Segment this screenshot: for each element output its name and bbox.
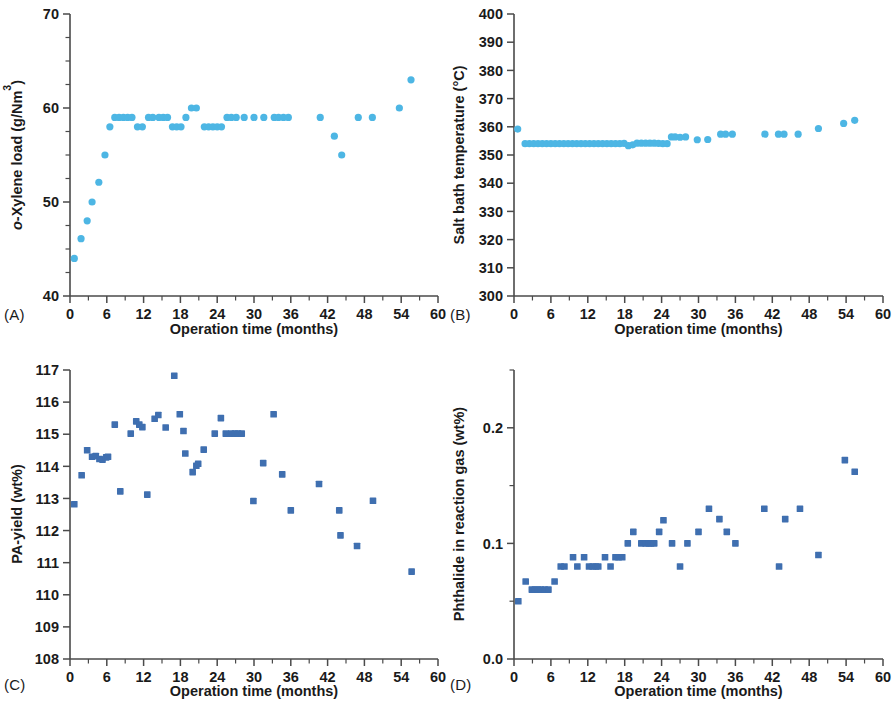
data-point	[88, 198, 95, 205]
data-point	[815, 552, 822, 559]
b-y-tick-label: 320	[479, 232, 503, 248]
data-point	[561, 563, 568, 570]
panel-b-tag: (B)	[450, 306, 471, 323]
data-point	[260, 114, 267, 121]
data-point	[815, 125, 822, 132]
figure-container: 4050607006121824303642485460Operation ti…	[0, 0, 893, 711]
data-point	[651, 540, 658, 547]
data-point	[355, 114, 362, 121]
data-point	[797, 505, 804, 512]
data-point	[574, 563, 581, 570]
b-y-tick-label: 360	[479, 119, 503, 135]
c-data-series	[71, 372, 415, 574]
data-point	[285, 114, 292, 121]
data-point	[101, 151, 108, 158]
d-data-series	[515, 457, 858, 605]
data-point	[630, 529, 637, 536]
b-y-tick-label: 300	[479, 288, 503, 304]
c-y-tick-label: 116	[36, 394, 59, 410]
c-y-tick-label: 111	[36, 555, 59, 571]
data-point	[71, 501, 78, 508]
data-point	[716, 516, 723, 523]
data-point	[570, 554, 577, 561]
c-x-axis-title: Operation time (months)	[170, 683, 339, 699]
data-point	[171, 372, 178, 379]
data-point	[193, 104, 200, 111]
data-point	[250, 114, 257, 121]
panel-c: 1081091101111121131141151161170612182430…	[0, 352, 450, 704]
data-point	[669, 540, 676, 547]
data-point	[595, 563, 602, 570]
data-point	[695, 529, 702, 536]
data-point	[316, 481, 323, 488]
d-y-tick-label: 0.2	[483, 420, 503, 436]
data-point	[331, 133, 338, 140]
d-x-tick-label: 12	[580, 669, 596, 685]
data-point	[581, 554, 588, 561]
data-point	[761, 131, 768, 138]
data-point	[723, 529, 730, 536]
c-y-tick-label: 113	[36, 491, 59, 507]
panel-c-plot: 1081091101111121131141151161170612182430…	[0, 352, 450, 704]
data-point	[111, 421, 118, 428]
data-point	[144, 491, 151, 498]
a-x-tick-label: 48	[356, 306, 372, 322]
data-point	[602, 554, 609, 561]
a-y-tick-label: 70	[43, 6, 59, 22]
panel-c-tag: (C)	[4, 676, 25, 693]
data-point	[729, 131, 736, 138]
data-point	[514, 125, 521, 132]
b-x-tick-label: 36	[727, 306, 743, 322]
b-x-tick-label: 18	[617, 306, 633, 322]
b-y-tick-label: 380	[479, 63, 503, 79]
data-point	[551, 578, 558, 585]
data-point	[851, 117, 858, 124]
c-x-tick-label: 6	[103, 669, 111, 685]
c-x-tick-label: 12	[136, 669, 152, 685]
a-x-axis-title: Operation time (months)	[170, 321, 339, 337]
data-point	[189, 469, 196, 476]
a-x-tick-label: 24	[209, 306, 225, 322]
data-point	[369, 114, 376, 121]
data-point	[842, 457, 849, 464]
c-y-tick-label: 112	[36, 523, 59, 539]
b-data-series	[514, 117, 858, 150]
a-x-tick-label: 36	[283, 306, 299, 322]
a-y-tick-label: 40	[43, 288, 59, 304]
a-x-tick-label: 54	[393, 306, 409, 322]
data-point	[288, 507, 295, 514]
a-y-tick-label: 50	[43, 194, 59, 210]
panel-a: 4050607006121824303642485460Operation ti…	[0, 0, 450, 345]
data-point	[407, 76, 414, 83]
data-point	[260, 460, 267, 467]
data-point	[238, 430, 245, 437]
panel-d-tag: (D)	[450, 676, 471, 693]
data-point	[155, 412, 162, 419]
panel-a-tag: (A)	[4, 306, 25, 323]
b-x-tick-label: 6	[547, 306, 555, 322]
c-x-tick-label: 54	[393, 669, 409, 685]
panel-a-plot: 4050607006121824303642485460Operation ti…	[0, 0, 450, 345]
c-y-tick-label: 109	[35, 619, 59, 635]
data-point	[722, 131, 729, 138]
data-point	[656, 529, 663, 536]
data-point	[78, 472, 85, 479]
panel-b: 3003103203303403503603703803904000612182…	[446, 0, 893, 345]
data-point	[354, 543, 361, 550]
c-x-tick-label: 0	[66, 669, 74, 685]
a-x-tick-label: 60	[430, 306, 446, 322]
data-point	[105, 453, 112, 460]
c-y-axis-title: PA-yield (wt%)	[9, 464, 25, 564]
data-point	[795, 131, 802, 138]
data-point	[84, 447, 91, 454]
data-point	[522, 578, 529, 585]
d-x-tick-label: 48	[801, 669, 817, 685]
data-point	[77, 235, 84, 242]
data-point	[218, 123, 225, 130]
b-y-axis-title: Salt bath temperature (°C)	[451, 65, 467, 244]
data-point	[182, 450, 189, 457]
c-x-tick-label: 48	[356, 669, 372, 685]
a-y-tick-label: 60	[43, 100, 59, 116]
data-point	[682, 133, 689, 140]
data-point	[664, 140, 671, 147]
